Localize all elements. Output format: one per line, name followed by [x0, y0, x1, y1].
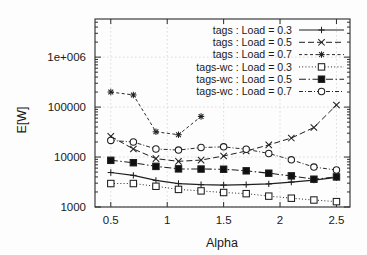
data-point-marker — [243, 146, 249, 152]
data-point-marker — [198, 188, 204, 194]
data-point-marker — [220, 189, 226, 195]
data-point-marker — [130, 172, 136, 178]
data-point-marker — [108, 169, 114, 175]
data-point-marker — [175, 186, 181, 192]
data-point-marker — [108, 157, 114, 163]
data-series — [108, 89, 205, 138]
data-point-marker — [153, 183, 159, 189]
data-point-marker — [243, 190, 249, 196]
data-point-marker — [153, 129, 159, 135]
series-line — [111, 92, 201, 135]
data-point-marker — [333, 174, 339, 180]
data-point-marker — [175, 147, 181, 153]
data-point-marker — [220, 182, 226, 188]
data-point-marker — [311, 164, 317, 170]
data-point-marker — [198, 144, 204, 150]
data-point-marker — [175, 166, 181, 172]
legend-label: tags : Load = 0.7 — [213, 48, 292, 60]
data-point-marker — [266, 193, 272, 199]
x-axis-title: Alpha — [206, 236, 238, 250]
legend-label: tags-wc : Load = 0.7 — [196, 85, 292, 97]
data-point-marker — [318, 88, 324, 94]
data-point-marker — [318, 76, 324, 82]
data-point-marker — [266, 142, 272, 148]
y-axis-tick-labels: 1000100001000001e+006 — [47, 51, 86, 213]
data-point-marker — [108, 180, 114, 186]
data-point-marker — [108, 137, 114, 143]
y-tick-label: 100000 — [48, 101, 86, 113]
data-point-marker — [175, 132, 181, 138]
data-point-marker — [220, 144, 226, 150]
data-point-marker — [333, 167, 339, 173]
data-point-marker — [220, 166, 226, 172]
legend-label: tags-wc : Load = 0.3 — [196, 61, 292, 73]
x-tick-label: 0.5 — [103, 214, 119, 226]
data-point-marker — [198, 166, 204, 172]
legend-label: tags : Load = 0.5 — [213, 36, 292, 48]
data-point-marker — [130, 139, 136, 145]
data-point-marker — [288, 173, 294, 179]
x-axis-tick-labels: 0.511.522.5 — [103, 214, 345, 226]
data-point-marker — [311, 197, 317, 203]
data-point-marker — [311, 124, 317, 130]
data-point-marker — [288, 157, 294, 163]
data-point-marker — [130, 180, 136, 186]
data-point-marker — [130, 92, 136, 98]
data-point-marker — [243, 181, 249, 187]
data-point-marker — [130, 160, 136, 166]
chart-legend: tags : Load = 0.3tags : Load = 0.5tags :… — [196, 24, 344, 98]
data-point-marker — [288, 179, 294, 185]
y-tick-label: 1000 — [60, 201, 86, 213]
data-point-marker — [198, 113, 204, 119]
data-point-marker — [198, 181, 204, 187]
data-point-marker — [243, 168, 249, 174]
y-axis-title: E[W] — [15, 106, 29, 133]
y-tick-label: 10000 — [54, 151, 86, 163]
data-point-marker — [288, 195, 294, 201]
data-point-marker — [318, 27, 324, 33]
x-tick-label: 1.5 — [216, 214, 232, 226]
data-point-marker — [130, 146, 136, 152]
chart-container: 1000100001000001e+006 0.511.522.5 tags :… — [0, 0, 367, 255]
data-point-marker — [333, 198, 339, 204]
legend-label: tags-wc : Load = 0.5 — [196, 73, 292, 85]
data-point-marker — [108, 89, 114, 95]
data-point-marker — [318, 51, 324, 57]
y-tick-label: 1e+006 — [47, 51, 86, 63]
data-point-marker — [153, 163, 159, 169]
x-tick-label: 1 — [164, 214, 170, 226]
line-chart: 1000100001000001e+006 0.511.522.5 tags :… — [0, 0, 367, 255]
x-tick-label: 2.5 — [328, 214, 344, 226]
data-point-marker — [311, 176, 317, 182]
data-point-marker — [318, 64, 324, 70]
data-point-marker — [288, 135, 294, 141]
data-point-marker — [153, 155, 159, 161]
data-point-marker — [266, 150, 272, 156]
data-series-group — [108, 89, 340, 205]
data-point-marker — [153, 146, 159, 152]
data-point-marker — [266, 181, 272, 187]
data-series — [108, 157, 340, 182]
legend-label: tags : Load = 0.3 — [213, 24, 292, 36]
x-tick-label: 2 — [277, 214, 283, 226]
data-point-marker — [266, 170, 272, 176]
